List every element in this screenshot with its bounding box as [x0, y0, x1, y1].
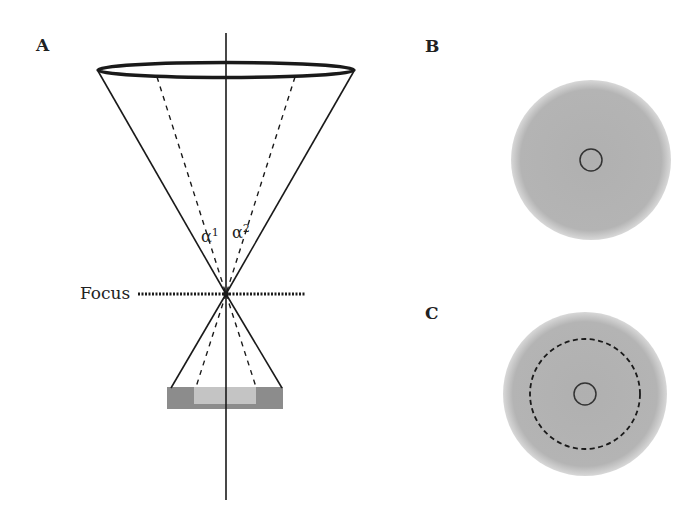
focus-point	[224, 292, 229, 297]
focus-label: Focus	[80, 283, 130, 303]
alpha-2-label: α2	[232, 222, 250, 242]
inner-ray-below-left	[196, 294, 226, 387]
outer-ray-below-left	[171, 294, 226, 388]
alpha-1-label: α1	[201, 226, 219, 246]
panel-label-a: A	[36, 35, 49, 55]
diagram-canvas	[0, 0, 697, 513]
outer-ray-below-right	[226, 294, 282, 388]
inner-ray-left	[157, 77, 226, 294]
outer-ray-right	[226, 71, 354, 294]
panel-b-diagram	[511, 80, 671, 240]
detector-inner	[194, 387, 256, 404]
blur-disk-c	[503, 312, 667, 476]
inner-ray-right	[226, 77, 295, 294]
panel-c-diagram	[503, 312, 667, 476]
outer-ray-left	[98, 71, 226, 294]
panel-label-c: C	[425, 303, 439, 323]
blur-disk-b	[511, 80, 671, 240]
panel-a-diagram	[98, 33, 354, 500]
inner-ray-below-right	[226, 294, 256, 387]
panel-label-b: B	[425, 36, 439, 56]
